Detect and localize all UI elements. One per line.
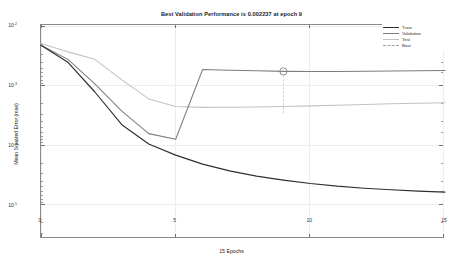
legend-label-validation: Validation	[402, 31, 421, 36]
yticklabel-exponent: -5	[14, 202, 17, 206]
x-axis-label: 15 Epochs	[0, 248, 463, 254]
legend-item-best[interactable]: Best	[383, 43, 445, 49]
yticklabel: 10-5	[8, 202, 17, 209]
legend-label-train: Train	[402, 25, 412, 30]
xticklabel: 0	[39, 217, 42, 223]
xticklabel: 10	[307, 217, 313, 223]
series-line-validation	[41, 45, 445, 139]
xticklabel: 5	[173, 217, 176, 223]
y-axis-label: Mean Squared Error (mse)	[13, 74, 19, 194]
plot-axes	[40, 24, 444, 238]
legend-swatch-train-icon	[383, 27, 399, 28]
curves-layer	[41, 25, 445, 239]
legend-swatch-validation-icon	[383, 33, 399, 34]
legend-label-best: Best	[402, 43, 411, 48]
legend-swatch-test-icon	[383, 39, 399, 40]
legend-swatch-best-icon	[383, 45, 399, 46]
legend-label-test: Test	[402, 37, 410, 42]
training-performance-figure: Best Validation Performance is 0.002237 …	[0, 0, 463, 274]
series-line-test	[41, 44, 445, 108]
yticklabel-exponent: -2	[14, 22, 17, 26]
legend: Train Validation Test Best	[382, 22, 447, 51]
series-line-train	[41, 45, 445, 192]
yticklabel: 10-2	[8, 22, 17, 29]
xticklabel: 15	[441, 217, 447, 223]
page-title: Best Validation Performance is 0.002237 …	[0, 11, 463, 17]
